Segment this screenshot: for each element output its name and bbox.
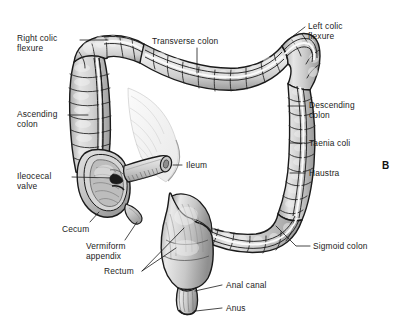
anatomy-illustration bbox=[0, 0, 400, 329]
transverse-colon-segment bbox=[140, 44, 288, 91]
left-colic-flexure-segment bbox=[282, 34, 320, 91]
leader-vermiform-appendix bbox=[125, 222, 137, 240]
anal-canal-segment bbox=[177, 288, 198, 315]
leader-anus bbox=[196, 308, 222, 311]
panel-letter-b: B bbox=[382, 160, 389, 171]
descending-colon-segment bbox=[278, 84, 315, 221]
large-intestine-figure: Right colic flexure Transverse colon Lef… bbox=[0, 0, 400, 329]
cecum-segment bbox=[77, 150, 130, 218]
rectum-segment bbox=[161, 193, 213, 290]
colon-body bbox=[68, 27, 320, 315]
vermiform-appendix-structure bbox=[125, 204, 142, 224]
